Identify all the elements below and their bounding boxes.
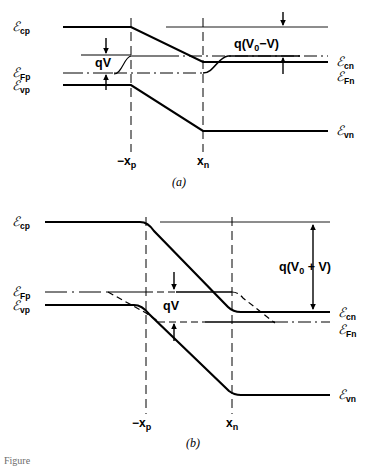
annotation-qv-a: qV <box>95 57 111 70</box>
label-ecp-b: ℰcp <box>12 215 30 228</box>
valence-band-a <box>63 85 328 131</box>
label-efn-a: ℰFn <box>336 70 354 83</box>
symbol-E: ℰ <box>338 322 346 337</box>
axis-label-minus-xp-a: −xp <box>117 155 136 167</box>
symbol-E: ℰ <box>336 54 344 69</box>
subscript-vn: vn <box>344 130 354 140</box>
quasi-fermi-electron-a <box>114 56 166 74</box>
figure-caption-partial: Figure <box>4 456 30 466</box>
symbol-E: ℰ <box>336 123 344 138</box>
symbol-E: ℰ <box>338 305 346 320</box>
barrier-b-tail: + V) <box>304 260 331 274</box>
minus-x-text: −x <box>117 154 131 168</box>
subscript-cn: cn <box>344 61 354 71</box>
barrier-a-open: q(V <box>234 37 254 51</box>
caption-panel-b: (b) <box>186 437 200 449</box>
x-text: x <box>226 416 233 430</box>
label-evn-b: ℰvn <box>338 388 356 401</box>
x-sub: n <box>204 160 210 170</box>
label-evp-b: ℰvp <box>12 299 30 312</box>
subscript-Fn: Fn <box>346 329 356 339</box>
panel-b <box>45 217 330 414</box>
annotation-qv-a-text: qV <box>95 56 111 70</box>
label-ecn-a: ℰcn <box>336 55 354 68</box>
quasi-fermi-hole-rise-a <box>203 56 300 73</box>
label-ecp-a: ℰcp <box>12 20 30 33</box>
minus-x-text: −x <box>132 416 146 430</box>
subscript-cp: cp <box>20 26 30 36</box>
symbol-E: ℰ <box>12 19 20 34</box>
symbol-E: ℰ <box>12 298 20 313</box>
label-evn-a: ℰvn <box>336 124 354 137</box>
label-ecn-b: ℰcn <box>338 306 356 319</box>
annotation-barrier-a: q(V0−V) <box>234 38 279 51</box>
annotation-qv-b: qV <box>163 300 179 313</box>
x-sub: n <box>233 422 239 432</box>
barrier-b-open: q(V <box>279 260 299 274</box>
annotation-barrier-b: q(V0 + V) <box>279 261 331 274</box>
valence-band-b <box>45 305 330 395</box>
barrier-a-sub: 0 <box>254 43 259 53</box>
figure-caption-text: Figure <box>4 455 30 466</box>
minus-x-sub: p <box>146 422 152 432</box>
label-evp-a: ℰvp <box>12 79 30 92</box>
symbol-E: ℰ <box>336 69 344 84</box>
subscript-cp: cp <box>20 221 30 231</box>
subscript-vp: vp <box>20 305 30 315</box>
caption-b-text: (b) <box>186 436 200 450</box>
subscript-vp: vp <box>20 85 30 95</box>
axis-label-minus-xp-b: −xp <box>132 417 151 429</box>
axis-label-xn-a: xn <box>197 155 209 167</box>
label-efn-b: ℰFn <box>338 323 356 336</box>
barrier-b-sub: 0 <box>299 266 304 276</box>
x-text: x <box>197 154 204 168</box>
caption-a-text: (a) <box>172 175 186 189</box>
axis-label-xn-b: xn <box>226 417 238 429</box>
symbol-E: ℰ <box>12 78 20 93</box>
quasi-fermi-hole-drop-b <box>232 292 275 323</box>
subscript-vn: vn <box>346 394 356 404</box>
symbol-E: ℰ <box>12 214 20 229</box>
minus-x-sub: p <box>131 160 137 170</box>
label-efp-b: ℰFp <box>12 285 30 298</box>
subscript-Fn: Fn <box>344 76 354 86</box>
subscript-cn: cn <box>346 312 356 322</box>
panel-a <box>63 12 328 152</box>
symbol-E: ℰ <box>12 284 20 299</box>
caption-panel-a: (a) <box>172 176 186 188</box>
barrier-a-tail: −V) <box>259 37 279 51</box>
symbol-E: ℰ <box>338 387 346 402</box>
annotation-qv-b-text: qV <box>163 299 179 313</box>
